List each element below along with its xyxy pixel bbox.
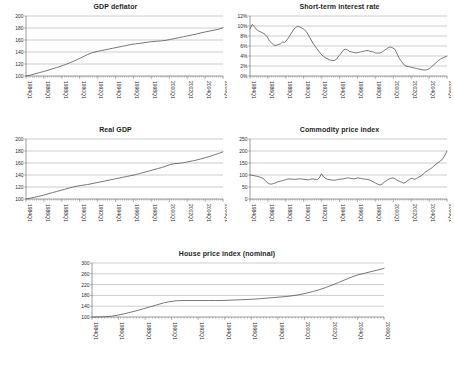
panel-commodity-price-index: Commodity price index 050100150200250198… bbox=[228, 126, 451, 244]
svg-text:1998Q1: 1998Q1 bbox=[152, 204, 158, 222]
svg-text:1990Q1: 1990Q1 bbox=[81, 81, 87, 99]
svg-text:1994Q1: 1994Q1 bbox=[340, 81, 346, 99]
svg-text:1996Q1: 1996Q1 bbox=[134, 81, 140, 99]
svg-text:1996Q1: 1996Q1 bbox=[252, 322, 258, 340]
svg-text:1988Q1: 1988Q1 bbox=[287, 81, 293, 99]
series-line bbox=[92, 268, 384, 317]
panel-short-term-interest-rate: Short-term interest rate 0%2%4%6%8%10%12… bbox=[228, 3, 451, 121]
svg-text:1988Q1: 1988Q1 bbox=[146, 322, 152, 340]
svg-text:1986Q1: 1986Q1 bbox=[269, 204, 275, 222]
svg-text:1988Q1: 1988Q1 bbox=[287, 204, 293, 222]
svg-text:1994Q1: 1994Q1 bbox=[116, 81, 122, 99]
svg-text:200: 200 bbox=[15, 136, 24, 142]
svg-text:12%: 12% bbox=[237, 13, 248, 19]
series-line bbox=[26, 152, 223, 199]
svg-text:1986Q1: 1986Q1 bbox=[269, 81, 275, 99]
svg-text:1990Q1: 1990Q1 bbox=[305, 204, 311, 222]
chart-title-commodity-price-index: Commodity price index bbox=[228, 126, 451, 133]
svg-text:1996Q1: 1996Q1 bbox=[134, 204, 140, 222]
svg-text:1992Q1: 1992Q1 bbox=[98, 81, 104, 99]
svg-text:180: 180 bbox=[15, 25, 24, 31]
svg-text:1992Q1: 1992Q1 bbox=[199, 322, 205, 340]
svg-text:1984Q1: 1984Q1 bbox=[27, 81, 33, 99]
chart-title-gdp-deflator: GDP deflator bbox=[4, 3, 227, 10]
svg-text:2004Q1: 2004Q1 bbox=[206, 81, 212, 99]
svg-text:120: 120 bbox=[15, 61, 24, 67]
plot-gdp-deflator: 1001201401601802001984Q11986Q11988Q11990… bbox=[4, 10, 227, 114]
svg-text:160: 160 bbox=[15, 160, 24, 166]
svg-text:2000Q1: 2000Q1 bbox=[170, 81, 176, 99]
svg-text:300: 300 bbox=[81, 260, 90, 266]
series-line bbox=[250, 151, 447, 185]
svg-text:150: 150 bbox=[239, 160, 248, 166]
svg-text:2002Q1: 2002Q1 bbox=[332, 322, 338, 340]
svg-text:1994Q1: 1994Q1 bbox=[226, 322, 232, 340]
svg-text:140: 140 bbox=[15, 172, 24, 178]
svg-text:6%: 6% bbox=[240, 43, 248, 49]
svg-text:1984Q1: 1984Q1 bbox=[251, 204, 257, 222]
svg-text:2004Q1: 2004Q1 bbox=[430, 204, 436, 222]
panel-house-price-index: House price index (nominal) 100140180220… bbox=[62, 250, 392, 363]
svg-text:0%: 0% bbox=[240, 73, 248, 79]
svg-text:10%: 10% bbox=[237, 23, 248, 29]
svg-text:1992Q1: 1992Q1 bbox=[322, 81, 328, 99]
svg-text:1990Q1: 1990Q1 bbox=[81, 204, 87, 222]
chart-title-short-term-interest-rate: Short-term interest rate bbox=[228, 3, 451, 10]
svg-text:100: 100 bbox=[15, 73, 24, 79]
svg-text:100: 100 bbox=[15, 196, 24, 202]
svg-text:1998Q1: 1998Q1 bbox=[376, 204, 382, 222]
plot-real-gdp: 1001201401601802001984Q11986Q11988Q11990… bbox=[4, 133, 227, 237]
svg-text:1988Q1: 1988Q1 bbox=[63, 81, 69, 99]
svg-text:2000Q1: 2000Q1 bbox=[170, 204, 176, 222]
svg-text:180: 180 bbox=[15, 148, 24, 154]
svg-text:2000Q1: 2000Q1 bbox=[394, 204, 400, 222]
svg-text:200: 200 bbox=[239, 148, 248, 154]
svg-text:1996Q1: 1996Q1 bbox=[358, 81, 364, 99]
svg-text:0: 0 bbox=[245, 196, 248, 202]
svg-text:8%: 8% bbox=[240, 33, 248, 39]
svg-text:1992Q1: 1992Q1 bbox=[98, 204, 104, 222]
svg-text:140: 140 bbox=[15, 49, 24, 55]
svg-text:120: 120 bbox=[15, 184, 24, 190]
svg-text:1984Q1: 1984Q1 bbox=[93, 322, 99, 340]
svg-text:2006Q1: 2006Q1 bbox=[224, 81, 227, 99]
chart-title-real-gdp: Real GDP bbox=[4, 126, 227, 133]
svg-text:1984Q1: 1984Q1 bbox=[27, 204, 33, 222]
svg-text:1986Q1: 1986Q1 bbox=[119, 322, 125, 340]
svg-text:1986Q1: 1986Q1 bbox=[45, 81, 51, 99]
svg-text:220: 220 bbox=[81, 282, 90, 288]
svg-text:1992Q1: 1992Q1 bbox=[322, 204, 328, 222]
svg-house-price-index: 1001401802202603001984Q11986Q11988Q11990… bbox=[62, 257, 392, 357]
svg-text:1994Q1: 1994Q1 bbox=[116, 204, 122, 222]
svg-text:1990Q1: 1990Q1 bbox=[172, 322, 178, 340]
svg-text:140: 140 bbox=[81, 303, 90, 309]
svg-text:50: 50 bbox=[242, 184, 248, 190]
plot-short-term-interest-rate: 0%2%4%6%8%10%12%1984Q11986Q11988Q11990Q1… bbox=[228, 10, 451, 114]
svg-text:1998Q1: 1998Q1 bbox=[376, 81, 382, 99]
svg-text:2004Q1: 2004Q1 bbox=[206, 204, 212, 222]
svg-text:2002Q1: 2002Q1 bbox=[188, 81, 194, 99]
svg-text:2000Q1: 2000Q1 bbox=[305, 322, 311, 340]
svg-text:180: 180 bbox=[81, 292, 90, 298]
svg-text:2006Q1: 2006Q1 bbox=[448, 81, 451, 99]
svg-text:1984Q1: 1984Q1 bbox=[251, 81, 257, 99]
svg-text:4%: 4% bbox=[240, 53, 248, 59]
svg-short-term-interest-rate: 0%2%4%6%8%10%12%1984Q11986Q11988Q11990Q1… bbox=[228, 10, 451, 114]
svg-text:260: 260 bbox=[81, 271, 90, 277]
panel-gdp-deflator: GDP deflator 1001201401601802001984Q1198… bbox=[4, 3, 227, 121]
svg-text:2006Q1: 2006Q1 bbox=[224, 204, 227, 222]
series-line bbox=[250, 25, 447, 71]
svg-text:2004Q1: 2004Q1 bbox=[430, 81, 436, 99]
svg-text:200: 200 bbox=[15, 13, 24, 19]
svg-text:2%: 2% bbox=[240, 63, 248, 69]
svg-text:2002Q1: 2002Q1 bbox=[412, 81, 418, 99]
svg-text:1988Q1: 1988Q1 bbox=[63, 204, 69, 222]
svg-text:1986Q1: 1986Q1 bbox=[45, 204, 51, 222]
svg-text:1994Q1: 1994Q1 bbox=[340, 204, 346, 222]
svg-text:2006Q1: 2006Q1 bbox=[448, 204, 451, 222]
svg-text:2002Q1: 2002Q1 bbox=[188, 204, 194, 222]
svg-text:250: 250 bbox=[239, 136, 248, 142]
svg-text:1998Q1: 1998Q1 bbox=[152, 81, 158, 99]
svg-gdp-deflator: 1001201401601802001984Q11986Q11988Q11990… bbox=[4, 10, 227, 114]
svg-text:100: 100 bbox=[81, 314, 90, 320]
